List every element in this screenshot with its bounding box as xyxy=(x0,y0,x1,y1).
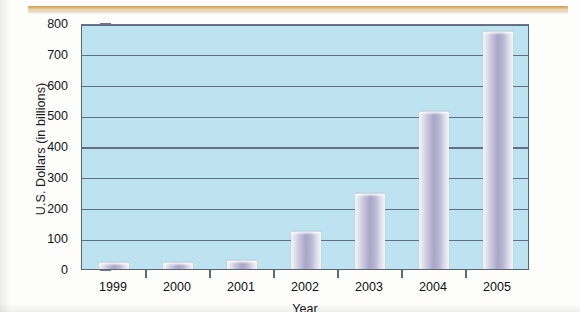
x-axis-tick-label: 2004 xyxy=(419,280,447,294)
x-axis-tick-label: 1999 xyxy=(99,280,127,294)
x-axis-tick-label: 2001 xyxy=(227,280,255,294)
bar-2001 xyxy=(227,260,257,269)
bar-2005 xyxy=(483,31,513,269)
y-axis-tick-label: 800 xyxy=(30,17,68,31)
plot-area xyxy=(81,24,529,270)
bar-chart: U.S. Dollars (in billions) 8007006005004… xyxy=(0,14,580,312)
x-axis-tick-mark xyxy=(209,270,211,278)
y-axis-tick-label: 300 xyxy=(30,171,68,185)
y-axis-tick-labels: 8007006005004003002001000 xyxy=(30,14,68,274)
bar-2004 xyxy=(419,111,449,269)
x-axis-tick-label: 2003 xyxy=(355,280,383,294)
x-axis-tick-mark xyxy=(145,270,147,278)
x-axis-tick-mark xyxy=(337,270,339,278)
bar-2000 xyxy=(163,262,193,269)
gridline xyxy=(82,209,528,210)
x-axis-tick-label: 2002 xyxy=(291,280,319,294)
gridline xyxy=(82,147,528,148)
x-axis-tick-label: 2005 xyxy=(483,280,511,294)
x-axis-title: Year xyxy=(81,302,529,312)
x-axis-tick-marks xyxy=(81,270,529,279)
y-axis-tick-label: 400 xyxy=(30,140,68,154)
x-axis-tick-mark xyxy=(465,270,467,278)
gridline xyxy=(82,86,528,87)
x-axis-tick-label: 2000 xyxy=(163,280,191,294)
x-axis-tick-labels: 1999200020012002200320042005 xyxy=(81,280,529,298)
chart-page: U.S. Dollars (in billions) 8007006005004… xyxy=(0,0,580,312)
x-axis-tick-mark xyxy=(401,270,403,278)
bar-2002 xyxy=(291,231,321,269)
gridline xyxy=(82,24,528,25)
gridline xyxy=(82,117,528,118)
y-axis-tick-label: 200 xyxy=(30,202,68,216)
bar-2003 xyxy=(355,193,385,269)
y-axis-tick-label: 700 xyxy=(30,48,68,62)
y-axis-tick-label: 100 xyxy=(30,232,68,246)
y-axis-tick-label: 0 xyxy=(30,263,68,277)
x-axis-tick-mark xyxy=(273,270,275,278)
y-axis-tick-label: 500 xyxy=(30,109,68,123)
gridline xyxy=(82,55,528,56)
y-axis-tick-label: 600 xyxy=(30,79,68,93)
gridline xyxy=(82,178,528,179)
bar-1999 xyxy=(99,262,129,269)
